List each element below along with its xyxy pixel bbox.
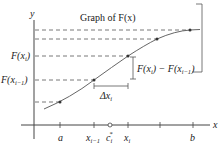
curve-point [127,55,130,58]
curve-point [189,29,192,32]
tick-label-xi: xi [123,132,130,144]
tick-label-ci: ci* [106,130,113,144]
right-bracket [192,4,202,72]
tick-label-xim1: xi−1 [85,132,100,144]
curve-point [93,79,96,82]
y-label-Fxi: F(xi) [10,50,31,62]
riemann-sum-diagram: y x Graph of F(x) a xi−1 ci* xi b F(xi) … [0,0,221,153]
tick-label-b: b [190,132,195,143]
curve-point [156,38,159,41]
x-axis-label: x [212,119,218,130]
ci-marker [108,123,112,127]
delta-x-label: Δxi [99,90,112,102]
curve-point [59,101,62,104]
tick-label-a: a [58,132,63,143]
graph-title: Graph of F(x) [80,12,136,24]
y-label-Fxim1: F(xi−1) [0,74,28,86]
difference-label: F(xi) − F(xi−1) [136,63,195,75]
y-axis-label: y [29,8,35,19]
